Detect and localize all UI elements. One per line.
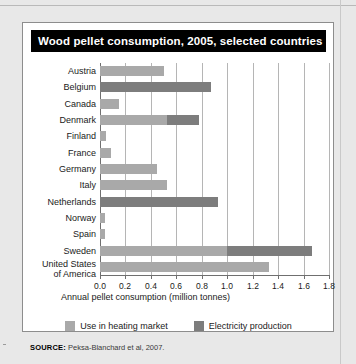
bar-segment bbox=[100, 197, 218, 207]
source-text: Peksa-Blanchard et al, 2007. bbox=[68, 343, 164, 352]
bar-segment bbox=[167, 115, 199, 125]
category-label: Canada bbox=[0, 99, 96, 109]
bar-segment bbox=[227, 246, 312, 256]
page-margin-mark bbox=[3, 344, 6, 345]
category-label: Spain bbox=[0, 229, 96, 239]
page-rule-top bbox=[0, 5, 356, 6]
bar-segment bbox=[100, 148, 111, 158]
category-label: Italy bbox=[0, 180, 96, 190]
chart-row: Canada bbox=[100, 96, 329, 112]
category-label: United States of America bbox=[0, 259, 96, 279]
bar-segment bbox=[100, 66, 164, 76]
bar-segment bbox=[100, 229, 105, 239]
bar-segment bbox=[100, 131, 106, 141]
chart-row: France bbox=[100, 145, 329, 161]
legend-item: Use in heating market bbox=[65, 321, 168, 331]
x-tick-mark bbox=[202, 275, 203, 279]
x-tick-mark bbox=[278, 275, 279, 279]
chart-row: Netherlands bbox=[100, 194, 329, 210]
chart-row: Austria bbox=[100, 63, 329, 79]
x-tick-mark bbox=[151, 275, 152, 279]
bar-segment bbox=[100, 82, 211, 92]
source-label: SOURCE: bbox=[30, 343, 66, 352]
category-label: Netherlands bbox=[0, 197, 96, 207]
bar-segment bbox=[100, 246, 227, 256]
gridline bbox=[329, 63, 330, 275]
figure-card: Wood pellet consumption, 2005, selected … bbox=[22, 22, 334, 332]
x-axis-line bbox=[100, 275, 329, 276]
x-tick-label: 0.0 bbox=[88, 281, 112, 291]
legend-item: Electricity production bbox=[194, 321, 292, 331]
category-label: Sweden bbox=[0, 246, 96, 256]
plot-wrapper: 0.00.20.40.60.81.01.21.41.61.8AustriaBel… bbox=[31, 59, 326, 287]
bar-segment bbox=[100, 213, 105, 223]
page-column-rule bbox=[340, 0, 341, 364]
bar-segment bbox=[100, 99, 119, 109]
x-tick-label: 0.8 bbox=[190, 281, 214, 291]
legend-label: Use in heating market bbox=[80, 321, 168, 331]
source-line: SOURCE: Peksa-Blanchard et al, 2007. bbox=[30, 343, 164, 352]
bar-segment bbox=[100, 115, 167, 125]
x-tick-mark bbox=[329, 275, 330, 279]
chart-row: Sweden bbox=[100, 243, 329, 259]
x-tick-mark bbox=[253, 275, 254, 279]
x-tick-mark bbox=[176, 275, 177, 279]
category-label: Austria bbox=[0, 66, 96, 76]
chart-row: Spain bbox=[100, 226, 329, 242]
chart-row: Belgium bbox=[100, 79, 329, 95]
category-label: France bbox=[0, 148, 96, 158]
chart-row: United States of America bbox=[100, 259, 329, 275]
x-tick-label: 1.6 bbox=[292, 281, 316, 291]
chart-row: Finland bbox=[100, 128, 329, 144]
bar-segment bbox=[100, 164, 157, 174]
x-tick-mark bbox=[125, 275, 126, 279]
x-axis-title: Annual pellet consumption (million tonne… bbox=[31, 292, 260, 302]
category-label: Norway bbox=[0, 213, 96, 223]
chart-legend: Use in heating marketElectricity product… bbox=[31, 319, 326, 333]
category-label: Finland bbox=[0, 131, 96, 141]
x-tick-label: 1.2 bbox=[241, 281, 265, 291]
x-tick-mark bbox=[100, 275, 101, 279]
legend-label: Electricity production bbox=[209, 321, 292, 331]
chart-row: Germany bbox=[100, 161, 329, 177]
x-tick-label: 1.4 bbox=[266, 281, 290, 291]
chart-row: Italy bbox=[100, 177, 329, 193]
chart-row: Norway bbox=[100, 210, 329, 226]
bar-segment bbox=[100, 262, 269, 272]
category-label: Denmark bbox=[0, 115, 96, 125]
x-tick-mark bbox=[304, 275, 305, 279]
plot-area: 0.00.20.40.60.81.01.21.41.61.8AustriaBel… bbox=[100, 63, 329, 275]
x-tick-label: 0.6 bbox=[164, 281, 188, 291]
x-tick-label: 0.2 bbox=[113, 281, 137, 291]
x-tick-label: 0.4 bbox=[139, 281, 163, 291]
x-tick-label: 1.8 bbox=[317, 281, 341, 291]
x-tick-mark bbox=[227, 275, 228, 279]
category-label: Belgium bbox=[0, 82, 96, 92]
x-tick-label: 1.0 bbox=[215, 281, 239, 291]
chart-row: Denmark bbox=[100, 112, 329, 128]
legend-swatch bbox=[194, 321, 204, 331]
chart-title: Wood pellet consumption, 2005, selected … bbox=[31, 30, 326, 52]
bar-segment bbox=[100, 180, 167, 190]
legend-swatch bbox=[65, 321, 75, 331]
category-label: Germany bbox=[0, 164, 96, 174]
